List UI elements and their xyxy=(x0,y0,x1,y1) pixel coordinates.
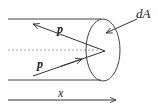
outgoing-momentum-label: p xyxy=(56,22,63,36)
incoming-momentum-arrowhead xyxy=(60,59,82,67)
area-element-pointer-arrow xyxy=(106,19,137,33)
area-element-label: dA xyxy=(136,6,151,21)
tube-diagram: dA p p x xyxy=(0,0,158,110)
x-axis-label: x xyxy=(57,86,64,100)
incoming-momentum-label: p xyxy=(36,57,43,71)
outgoing-momentum-arrow xyxy=(33,24,105,51)
